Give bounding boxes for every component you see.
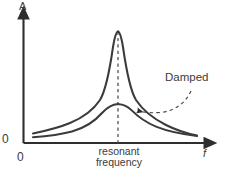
- damped-callout-arrow: [138, 91, 192, 113]
- x-axis-label: f: [203, 148, 206, 160]
- y-axis-label: A: [19, 1, 26, 13]
- x-origin-label: 0: [17, 151, 24, 164]
- resonant-frequency-line-2: frequency: [83, 157, 155, 168]
- y-origin-label: 0: [2, 133, 9, 146]
- damped-curve-label: Damped: [165, 71, 208, 83]
- resonant-frequency-caption: resonant frequency: [83, 146, 155, 169]
- resonance-curve-figure: A f 0 0 resonant frequency Damped: [0, 0, 226, 178]
